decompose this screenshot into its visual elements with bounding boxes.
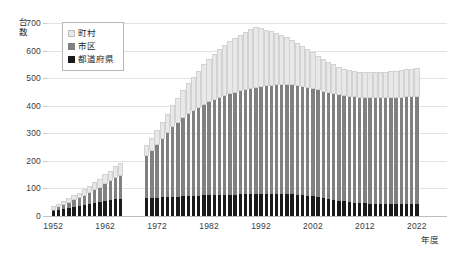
- bar-segment-市区: [202, 104, 205, 196]
- legend-swatch-todofuken: [68, 56, 75, 63]
- bar: [322, 60, 325, 216]
- x-axis-title: 年度: [412, 233, 448, 245]
- bar-segment-町村: [265, 31, 268, 86]
- bar: [78, 194, 81, 216]
- bar-segment-都道府県: [301, 195, 304, 216]
- bar-segment-都道府県: [348, 202, 351, 216]
- bar-segment-都道府県: [311, 196, 314, 216]
- bar-segment-市区: [374, 97, 377, 204]
- legend-label-todofuken: 都道府県: [78, 55, 114, 64]
- bar-segment-町村: [233, 39, 236, 92]
- bar-segment-市区: [316, 89, 319, 197]
- bar: [353, 72, 356, 216]
- y-axis-tick-label: 200: [15, 157, 41, 166]
- bar-segment-都道府県: [275, 194, 278, 216]
- legend-swatch-chouson: [68, 30, 75, 37]
- bar-segment-市区: [368, 97, 371, 204]
- bar: [265, 31, 268, 216]
- bar-segment-都道府県: [161, 197, 164, 216]
- bar-segment-町村: [254, 28, 257, 87]
- bar-segment-都道府県: [166, 197, 169, 216]
- bar: [415, 69, 418, 217]
- bar-segment-都道府県: [67, 208, 70, 216]
- bar-segment-都道府県: [155, 198, 158, 216]
- bar: [109, 172, 112, 216]
- bar-segment-市区: [259, 86, 262, 194]
- x-axis-tick-label: 1972: [137, 221, 177, 231]
- bar-segment-町村: [389, 72, 392, 97]
- bar: [72, 196, 75, 216]
- bar-segment-市区: [207, 101, 210, 195]
- bar: [379, 73, 382, 216]
- bar-segment-町村: [270, 32, 273, 84]
- bar-segment-市区: [384, 97, 387, 204]
- bar: [207, 60, 210, 216]
- bar-segment-町村: [332, 65, 335, 93]
- bar-segment-町村: [171, 106, 174, 126]
- bar-segment-都道府県: [114, 199, 117, 216]
- bar-segment-町村: [103, 175, 106, 183]
- bar: [213, 55, 216, 216]
- bar: [93, 183, 96, 216]
- bar: [218, 50, 221, 216]
- bar-segment-市区: [93, 189, 96, 203]
- bar-segment-町村: [348, 71, 351, 96]
- y-axis-tick-label: 700: [15, 19, 41, 28]
- bar: [337, 68, 340, 216]
- x-axis-tick-label: 1992: [241, 221, 281, 231]
- y-axis-tick-label: 0: [15, 212, 41, 221]
- bar-segment-町村: [363, 73, 366, 97]
- bar-segment-町村: [405, 70, 408, 96]
- bar-segment-都道府県: [207, 195, 210, 216]
- bar-segment-町村: [368, 73, 371, 97]
- bar-segment-町村: [353, 72, 356, 96]
- bar-segment-市区: [275, 85, 278, 194]
- bar-segment-都道府県: [233, 195, 236, 217]
- bar-segment-市区: [332, 93, 335, 200]
- bar-segment-市区: [379, 97, 382, 204]
- bar-segment-町村: [410, 70, 413, 96]
- bar-segment-市区: [72, 199, 75, 206]
- bar-segment-町村: [394, 72, 397, 97]
- bar-segment-都道府県: [379, 204, 382, 216]
- bar: [327, 63, 330, 216]
- bar-segment-都道府県: [119, 199, 122, 216]
- bar-segment-都道府県: [145, 198, 148, 216]
- bar: [119, 164, 122, 216]
- y-axis-tick-mark: [43, 161, 47, 162]
- bar-segment-町村: [202, 65, 205, 103]
- bar-segment-町村: [93, 183, 96, 189]
- bar-segment-町村: [223, 46, 226, 95]
- y-axis-tick-mark: [43, 23, 47, 24]
- bar-segment-町村: [316, 57, 319, 90]
- bar: [166, 115, 169, 216]
- bar-segment-町村: [207, 60, 210, 101]
- bar-segment-市区: [337, 94, 340, 200]
- bar-segment-都道府県: [280, 194, 283, 216]
- bar-segment-町村: [275, 34, 278, 84]
- bar: [88, 187, 91, 216]
- bar-segment-市区: [410, 96, 413, 204]
- bar: [290, 41, 293, 216]
- bar-segment-町村: [161, 123, 164, 138]
- bar: [52, 207, 55, 216]
- bar-segment-町村: [280, 36, 283, 84]
- bar: [233, 39, 236, 216]
- bar-segment-市区: [254, 87, 257, 194]
- bar: [384, 73, 387, 216]
- bar: [223, 46, 226, 216]
- y-axis-tick-mark: [43, 188, 47, 189]
- bar: [275, 34, 278, 216]
- bar-segment-都道府県: [197, 196, 200, 216]
- bar-segment-町村: [83, 190, 86, 194]
- bar-segment-市区: [197, 107, 200, 196]
- bar-segment-都道府県: [405, 204, 408, 216]
- bar-segment-町村: [342, 70, 345, 96]
- bar-segment-都道府県: [187, 196, 190, 216]
- bar: [67, 199, 70, 216]
- bar-segment-町村: [306, 50, 309, 87]
- y-axis-tick-mark: [43, 78, 47, 79]
- bar-segment-都道府県: [332, 200, 335, 216]
- bar: [202, 65, 205, 216]
- y-axis-tick-mark: [43, 51, 47, 52]
